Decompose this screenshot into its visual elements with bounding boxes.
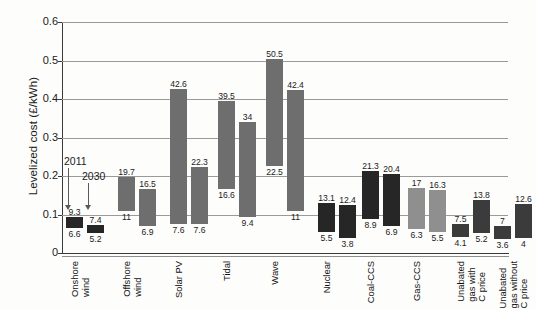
x-category-label-wave: Wave bbox=[270, 261, 281, 285]
bar-value-low: 9.4 bbox=[234, 218, 261, 228]
bar-wave-2011 bbox=[266, 59, 283, 167]
bar-value-high: 12.4 bbox=[334, 195, 361, 205]
y-tick-label: 0.5 bbox=[18, 54, 58, 66]
gridline bbox=[62, 138, 508, 139]
bar-unabated-gas-without-c-price-2011 bbox=[494, 226, 511, 239]
bar-onshore-wind-2011 bbox=[66, 217, 83, 227]
bar-value-low: 5.2 bbox=[82, 234, 109, 244]
bar-offshore-wind-2011 bbox=[118, 177, 135, 210]
annotation-arrow-2030-head bbox=[85, 205, 91, 210]
bar-value-low: 6.9 bbox=[134, 227, 161, 237]
bar-value-high: 12.6 bbox=[510, 194, 536, 204]
y-tick-label: 0.6 bbox=[18, 15, 58, 27]
annotation-2030: 2030 bbox=[82, 170, 105, 182]
annotation-2011: 2011 bbox=[64, 155, 87, 167]
bar-value-low: 4 bbox=[510, 239, 536, 249]
bar-gas-ccs-2011 bbox=[408, 188, 425, 229]
bar-nuclear-2030 bbox=[339, 205, 356, 238]
y-tick-label: 0.2 bbox=[18, 169, 58, 181]
bar-value-high: 42.6 bbox=[165, 79, 192, 89]
gridline bbox=[62, 22, 508, 23]
bar-value-high: 7.5 bbox=[447, 214, 474, 224]
plot-area: 9.36.67.45.219.71116.56.942.67.622.37.63… bbox=[62, 22, 508, 253]
bar-value-high: 42.4 bbox=[282, 80, 309, 90]
bar-value-low: 16.6 bbox=[213, 190, 240, 200]
bar-value-high: 34 bbox=[234, 112, 261, 122]
x-category-label-tidal: Tidal bbox=[222, 261, 233, 281]
bar-tidal-2011 bbox=[218, 101, 235, 189]
bar-wave-2030 bbox=[287, 90, 304, 211]
y-tick-label: 0.3 bbox=[18, 131, 58, 143]
y-tick-mark bbox=[58, 253, 63, 254]
bar-value-low: 3.8 bbox=[334, 239, 361, 249]
bar-value-high: 50.5 bbox=[261, 49, 288, 59]
x-category-label-coal-ccs: Coal-CCS bbox=[366, 261, 377, 303]
bar-value-low: 11 bbox=[282, 212, 309, 222]
bar-value-high: 13.8 bbox=[468, 190, 495, 200]
bar-value-high: 22.3 bbox=[186, 157, 213, 167]
bar-value-high: 7.4 bbox=[82, 215, 109, 225]
bar-nuclear-2011 bbox=[318, 203, 335, 232]
bar-value-high: 16.3 bbox=[424, 180, 451, 190]
y-tick-label: 0.1 bbox=[18, 208, 58, 220]
x-category-label-offshore-wind: Offshorewind bbox=[122, 261, 143, 297]
annotation-arrow-2030-line bbox=[88, 183, 89, 207]
bar-unabated-gas-with-c-price-2030 bbox=[473, 200, 490, 233]
bar-gas-ccs-2030 bbox=[429, 190, 446, 232]
annotation-arrow-2011-head bbox=[65, 205, 71, 210]
x-category-label-onshore-wind: Onshorewind bbox=[70, 261, 91, 297]
bar-unabated-gas-with-c-price-2011 bbox=[452, 224, 469, 237]
bar-coal-ccs-2011 bbox=[362, 171, 379, 219]
bar-unabated-gas-without-c-price-2030 bbox=[515, 204, 532, 237]
bar-value-high: 20.4 bbox=[378, 164, 405, 174]
y-tick-label: 0.4 bbox=[18, 92, 58, 104]
x-category-label-gas-ccs: Gas-CCS bbox=[412, 261, 423, 301]
x-category-label-solar-pv: Solar PV bbox=[174, 261, 185, 298]
bar-offshore-wind-2030 bbox=[139, 189, 156, 226]
annotation-arrow-2011-line bbox=[68, 168, 69, 207]
bar-value-low: 6.9 bbox=[378, 227, 405, 237]
bar-tidal-2030 bbox=[239, 122, 256, 217]
bar-value-high: 16.5 bbox=[134, 179, 161, 189]
gridline bbox=[62, 99, 508, 100]
bar-value-high: 7 bbox=[489, 216, 516, 226]
bar-coal-ccs-2030 bbox=[383, 174, 400, 226]
bar-onshore-wind-2030 bbox=[87, 225, 104, 233]
gridline bbox=[62, 61, 508, 62]
bar-value-high: 39.5 bbox=[213, 91, 240, 101]
y-tick-label: 0 bbox=[18, 246, 58, 258]
bar-solar-pv-2030 bbox=[191, 167, 208, 224]
x-category-label-nuclear: Nuclear bbox=[322, 261, 333, 293]
bar-value-low: 7.6 bbox=[186, 225, 213, 235]
bar-value-high: 19.7 bbox=[113, 167, 140, 177]
x-category-label-unabated-gas-without-c-price: Unabatedgas withoutC price bbox=[498, 261, 530, 308]
x-category-label-unabated-gas-with-c-price: Unabatedgas withC price bbox=[456, 261, 488, 302]
bar-value-low: 11 bbox=[113, 212, 140, 222]
bar-value-low: 22.5 bbox=[261, 167, 288, 177]
bar-solar-pv-2011 bbox=[170, 89, 187, 224]
